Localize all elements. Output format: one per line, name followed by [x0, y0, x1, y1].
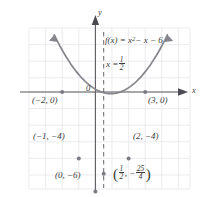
function-equation-exponent: 2 — [132, 36, 135, 43]
vertex-close-paren: ) — [146, 167, 151, 182]
function-equation-lead: f(x) = x — [105, 36, 132, 45]
origin-label: 0 — [86, 84, 90, 93]
parabola-graph-figure: y x 0 f(x) = x2 − x − 6 x = 1 2 (−2, 0) … — [0, 0, 207, 197]
vertex-y-sign: − — [129, 169, 135, 178]
data-point — [127, 156, 131, 160]
data-point — [77, 156, 81, 160]
grid-lines — [29, 28, 190, 189]
function-equation-label: f(x) = x2 − x − 6 — [105, 36, 163, 45]
point-label-left-mid: (−1, −4) — [33, 132, 65, 141]
vertex-x-fraction: 1 2 — [119, 165, 125, 182]
function-equation-rest: − x − 6 — [135, 36, 162, 45]
point-label-x-intercept-left: (−2, 0) — [32, 96, 58, 105]
axis-of-symmetry-lead: x = — [106, 60, 118, 69]
vertex-x-denominator: 2 — [119, 173, 125, 181]
vertex-point — [102, 172, 106, 176]
vertex-label: ( 1 2 , − 25 4 ) — [113, 165, 151, 182]
data-point — [143, 90, 147, 94]
x-axis-label: x — [192, 86, 196, 95]
axis-of-symmetry-fraction: 1 2 — [119, 56, 125, 73]
y-axis-label: y — [98, 8, 102, 17]
point-label-y-intercept: (0, −6) — [55, 171, 81, 180]
vertex-open-paren: ( — [113, 167, 118, 182]
vertex-y-denominator: 4 — [138, 173, 144, 181]
point-label-right-mid: (2, −4) — [133, 132, 159, 141]
data-point — [60, 90, 64, 94]
data-point — [93, 190, 97, 194]
vertex-y-fraction: 25 4 — [136, 165, 146, 182]
fraction-denominator: 2 — [119, 64, 125, 72]
point-label-x-intercept-right: (3, 0) — [148, 96, 168, 105]
y-axis — [92, 15, 99, 192]
axis-of-symmetry-label: x = 1 2 — [106, 56, 125, 73]
